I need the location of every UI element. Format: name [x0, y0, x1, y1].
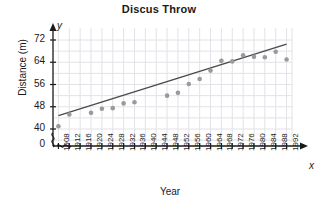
y-tick-label: 72 — [23, 33, 45, 44]
x-tick-label: 1988 — [280, 133, 289, 151]
data-point — [219, 59, 224, 64]
x-tick-label: 1956 — [193, 133, 202, 151]
data-point — [208, 68, 213, 73]
data-point — [186, 82, 191, 87]
data-point — [263, 55, 268, 60]
data-point — [132, 100, 137, 105]
x-tick-label: 1912 — [73, 133, 82, 151]
y-tick-label: 64 — [23, 55, 45, 66]
x-tick-label: 1944 — [160, 133, 169, 151]
data-point — [273, 49, 278, 54]
x-tick-label: 1972 — [236, 133, 245, 151]
data-point — [197, 77, 202, 82]
x-tick-label: 1952 — [182, 133, 191, 151]
grid-lines — [54, 28, 292, 142]
data-point — [67, 112, 72, 117]
x-tick-label: 1916 — [84, 133, 93, 151]
x-tick-label: 1908 — [62, 133, 71, 151]
x-tick-label: 1968 — [225, 133, 234, 151]
x-tick-label: 1980 — [258, 133, 267, 151]
y-tick-label: 48 — [23, 100, 45, 111]
x-tick-label: 1920 — [95, 133, 104, 151]
x-tick-label: 1976 — [247, 133, 256, 151]
data-point — [56, 124, 61, 129]
x-tick-label: 1964 — [215, 133, 224, 151]
data-point — [284, 57, 289, 62]
x-tick-label: 1936 — [138, 133, 147, 151]
origin-label: 0 — [23, 138, 45, 149]
x-tick-label: 1992 — [291, 133, 300, 151]
data-point — [252, 54, 257, 59]
x-tick-label: 1924 — [106, 133, 115, 151]
x-tick-label: 1940 — [149, 133, 158, 151]
trend-line — [58, 44, 286, 115]
discus-throw-chart-figure: Discus Throw Distance (m) Year 404856647… — [0, 0, 318, 203]
data-point — [100, 106, 105, 111]
y-tick-label: 40 — [23, 122, 45, 133]
y-tick-label: 56 — [23, 78, 45, 89]
x-tick-label: 1984 — [269, 133, 278, 151]
data-point — [110, 106, 115, 111]
data-point — [165, 93, 170, 98]
x-tick-label: 1932 — [128, 133, 137, 151]
data-point — [89, 111, 94, 116]
data-point — [241, 53, 246, 58]
x-axis-letter: x — [309, 160, 314, 171]
x-tick-label: 1960 — [204, 133, 213, 151]
y-axis-letter: y — [57, 20, 62, 31]
data-point — [121, 101, 126, 106]
data-point — [176, 91, 181, 96]
plot-canvas — [0, 0, 318, 203]
x-tick-label: 1948 — [171, 133, 180, 151]
x-axis-title: Year — [110, 186, 230, 197]
x-tick-label: 1928 — [117, 133, 126, 151]
data-point — [230, 59, 235, 64]
axis-lines — [50, 23, 309, 150]
